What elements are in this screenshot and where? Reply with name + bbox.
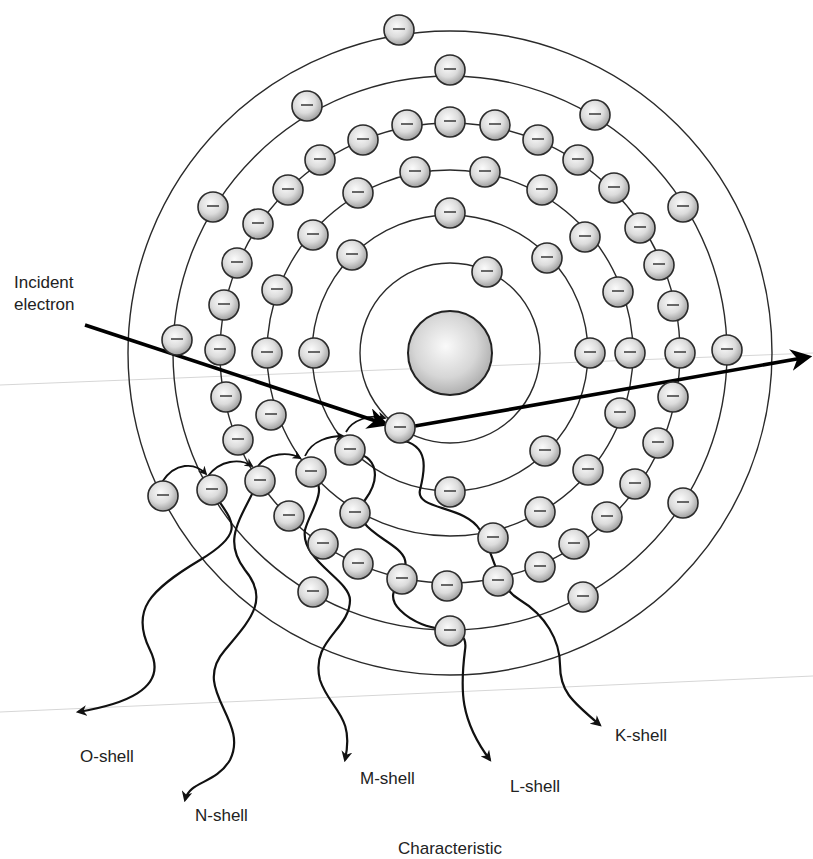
scan-artifacts: [0, 353, 813, 712]
electron: [712, 335, 742, 365]
electron: [209, 290, 239, 320]
electron: [603, 277, 633, 307]
electron: [198, 192, 228, 222]
electron: [620, 469, 650, 499]
electron: [658, 291, 688, 321]
incident-label-line1: Incident: [14, 272, 74, 294]
electron: [343, 178, 373, 208]
electron: [559, 529, 589, 559]
incident-label-line2: electron: [14, 294, 74, 316]
electron: [527, 175, 557, 205]
electron: [525, 552, 555, 582]
electron: [563, 145, 593, 175]
electron: [523, 125, 553, 155]
electron: [308, 529, 338, 559]
electron: [292, 91, 322, 121]
incident-electron-label: Incident electron: [14, 272, 74, 316]
electron: [222, 248, 252, 278]
electron: [580, 100, 610, 130]
electron: [599, 173, 629, 203]
electron: [205, 335, 235, 365]
electron: [400, 157, 430, 187]
k-shell-label: K-shell: [615, 725, 667, 747]
electron: [340, 498, 370, 528]
electron: [532, 243, 562, 273]
electron: [668, 488, 698, 518]
electron: [483, 566, 513, 596]
electron: [470, 157, 500, 187]
electron: [387, 564, 417, 594]
electron: [668, 192, 698, 222]
electron: [392, 110, 422, 140]
electron: [162, 325, 192, 355]
electron: [568, 582, 598, 612]
electron: [243, 209, 273, 239]
o-shell-photon: [78, 492, 232, 712]
electron: [385, 413, 415, 443]
n-shell-label: N-shell: [195, 805, 248, 827]
electron: [197, 475, 227, 505]
electron: [298, 220, 328, 250]
electron: [223, 425, 253, 455]
electron: [573, 455, 603, 485]
electron: [435, 107, 465, 137]
electron: [472, 257, 502, 287]
electron: [575, 338, 605, 368]
electron: [252, 338, 282, 368]
electron: [478, 523, 508, 553]
electron: [435, 477, 465, 507]
l-shell-photon: [350, 452, 490, 760]
electron: [343, 549, 373, 579]
figure-caption: Characteristic: [398, 838, 502, 859]
electron: [305, 145, 335, 175]
electron: [432, 571, 462, 601]
electron: [530, 436, 560, 466]
electron: [335, 435, 365, 465]
electron: [644, 250, 674, 280]
electron: [435, 616, 465, 646]
electron: [592, 502, 622, 532]
electron: [298, 577, 328, 607]
o-shell-label: O-shell: [80, 746, 134, 768]
electron: [337, 240, 367, 270]
electron: [273, 175, 303, 205]
electron: [256, 400, 286, 430]
electron: [435, 198, 465, 228]
electron: [148, 481, 178, 511]
electron: [665, 338, 695, 368]
electron: [605, 398, 635, 428]
n-shell-photon: [185, 482, 258, 800]
nucleus: [408, 311, 492, 395]
electron: [570, 222, 600, 252]
electron: [643, 428, 673, 458]
electron: [262, 275, 292, 305]
electron: [384, 15, 414, 45]
electron: [296, 457, 326, 487]
electron: [274, 501, 304, 531]
electron: [299, 338, 329, 368]
atom-diagram: [0, 0, 813, 859]
electron: [525, 497, 555, 527]
electron: [480, 110, 510, 140]
electron: [615, 338, 645, 368]
electron: [211, 382, 241, 412]
l-shell-label: L-shell: [510, 776, 560, 798]
m-shell-label: M-shell: [360, 768, 415, 790]
electron: [348, 125, 378, 155]
electron: [658, 382, 688, 412]
electron: [245, 466, 275, 496]
electron: [625, 213, 655, 243]
electron: [435, 55, 465, 85]
